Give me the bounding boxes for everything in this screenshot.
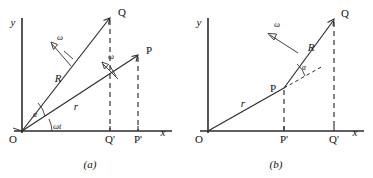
panel-a-omega-R-tick [64, 51, 73, 59]
panel-b-y-axis-label: y [196, 16, 202, 28]
panel-a-vector-r-arrowhead [132, 55, 139, 62]
panel-b-caption: (b) [246, 158, 306, 170]
panel-a-y-axis-label: y [10, 16, 16, 28]
panel-b-vector-r-label: r [241, 97, 246, 109]
panel-a-omega-r-label: ω [108, 51, 114, 61]
panel-b-omega-label: ω [274, 19, 280, 29]
panel-b-point-q-foot-label: Q' [329, 133, 339, 145]
panel-b-point-p-label: P [270, 82, 276, 94]
panel-b-vector-R [284, 21, 333, 88]
panel-a-caption: (a) [60, 158, 120, 170]
panel-a-omega-R-label: ω [57, 32, 63, 42]
panel-a-x-axis-label: x [160, 126, 166, 138]
panel-a: y x O Q P Q' P' R r α ωt ω ω [0, 0, 187, 155]
panel-b-origin-label: O [195, 133, 203, 145]
panel-a-angle-omega-t-label: ωt [53, 121, 62, 131]
panel-a-point-q-label: Q [118, 6, 126, 18]
panel-a-vector-R-label: R [54, 72, 62, 84]
panel-b-point-q-label: Q [341, 7, 349, 19]
panel-a-vector-r-label: r [74, 100, 79, 112]
panel-b-x-axis-label: x [352, 126, 358, 138]
panel-a-point-p-label: P [146, 44, 152, 56]
panel-b-omega-leader [270, 35, 298, 53]
panel-a-arc-omega-t [49, 119, 52, 131]
panel-b-vector-R-label: R [307, 41, 315, 53]
panel-a-origin-label: O [9, 133, 17, 145]
figure-root: y x O Q P Q' P' R r α ωt ω ω [0, 0, 373, 178]
panel-b-vector-r [208, 88, 284, 131]
panel-b: y x O Q P P' Q' R r α ω [186, 0, 373, 155]
panel-b-point-p-foot-label: P' [280, 133, 288, 145]
panel-a-vector-r [22, 56, 137, 131]
panel-a-point-q-foot-label: Q' [105, 133, 115, 145]
panel-a-omega-R-arrowhead [51, 42, 58, 50]
panel-a-point-p-foot-label: P' [134, 133, 142, 145]
panel-b-angle-alpha-label: α [302, 63, 307, 72]
